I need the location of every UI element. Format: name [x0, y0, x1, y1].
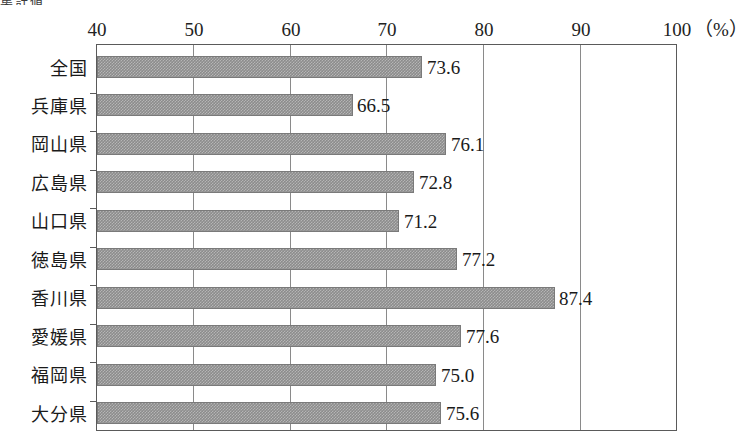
bar-fukuoka	[97, 364, 436, 386]
x-axis-tick-label: 60	[261, 20, 321, 40]
category-label: 大分県	[0, 404, 88, 426]
bar-oita	[97, 402, 441, 424]
category-label: 福岡県	[0, 365, 88, 387]
gridline-80	[483, 45, 484, 430]
category-label: 徳島県	[0, 250, 88, 272]
x-axis-tick-label: 40	[67, 20, 127, 40]
category-label: 愛媛県	[0, 327, 88, 349]
x-axis-tick-label: 70	[357, 20, 417, 40]
bar-okayama	[97, 133, 446, 155]
bar-yamaguchi	[97, 210, 399, 232]
gridline-90	[580, 45, 581, 430]
bar-hiroshima	[97, 171, 414, 193]
category-label: 兵庫県	[0, 96, 88, 118]
bar-value-label: 75.0	[441, 365, 474, 387]
bar-value-label: 73.6	[427, 57, 460, 79]
category-label: 山口県	[0, 211, 88, 233]
category-label: 香川県	[0, 288, 88, 310]
bar-ehime	[97, 325, 461, 347]
bar-value-label: 72.8	[419, 172, 452, 194]
x-axis-tick-label: 90	[551, 20, 611, 40]
bar-hyogo	[97, 94, 353, 116]
bar-kagawa	[97, 287, 555, 309]
bar-tokushima	[97, 248, 457, 270]
category-label: 岡山県	[0, 134, 88, 156]
x-axis-tick-label: 80	[454, 20, 514, 40]
bar-value-label: 87.4	[559, 288, 592, 310]
horizontal-bar-chart: 40 50 60 70 80 90 100 （%） 全国 兵庫県 岡山県 広島県…	[0, 0, 746, 447]
bar-value-label: 77.6	[466, 326, 499, 348]
bar-value-label: 71.2	[404, 211, 437, 233]
x-axis-unit-label: （%）	[694, 20, 746, 40]
bar-zenkoku	[97, 56, 422, 78]
category-label: 全国	[0, 58, 88, 80]
x-axis-tick-label: 50	[164, 20, 224, 40]
category-label: 広島県	[0, 173, 88, 195]
bar-value-label: 77.2	[462, 249, 495, 271]
bar-value-label: 75.6	[446, 403, 479, 425]
bar-value-label: 76.1	[451, 134, 484, 156]
bar-value-label: 66.5	[357, 95, 390, 117]
